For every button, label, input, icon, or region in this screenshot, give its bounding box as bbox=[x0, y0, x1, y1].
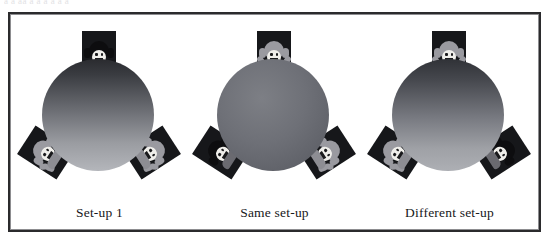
central-sphere bbox=[392, 59, 504, 171]
doll-eye-left bbox=[393, 153, 397, 157]
doll-eye-right bbox=[451, 53, 454, 56]
doll-eye-left bbox=[148, 149, 152, 153]
doll-eye-left bbox=[445, 53, 448, 56]
panel-same-setup: Same set-up bbox=[187, 15, 362, 229]
panel-caption-different-setup: Different set-up bbox=[362, 205, 537, 221]
panel-caption-setup-1: Set-up 1 bbox=[12, 205, 187, 221]
doll-eye-right bbox=[151, 153, 155, 157]
setup-stage-1 bbox=[12, 17, 187, 195]
central-sphere bbox=[217, 59, 329, 171]
central-sphere bbox=[42, 59, 154, 171]
doll-eye-left bbox=[270, 53, 273, 56]
figure-frame: Set-up 1 bbox=[8, 12, 541, 232]
doll-eye-left bbox=[43, 153, 47, 157]
doll-eye-left bbox=[323, 149, 327, 153]
doll-eye-right bbox=[221, 149, 225, 153]
doll-eye-left bbox=[498, 149, 502, 153]
panel-setup-1: Set-up 1 bbox=[12, 15, 187, 229]
doll-eye-right bbox=[501, 153, 505, 157]
doll-eye-right bbox=[396, 149, 400, 153]
setup-stage-2 bbox=[187, 17, 362, 195]
doll-eye-right bbox=[101, 53, 104, 56]
doll-eye-right bbox=[326, 153, 330, 157]
setup-stage-3 bbox=[362, 17, 537, 195]
cut-off-header-text: a a aa a a a a a a bbox=[4, 0, 164, 5]
doll-eye-left bbox=[218, 153, 222, 157]
doll-eye-left bbox=[95, 53, 98, 56]
panel-row: Set-up 1 bbox=[11, 15, 538, 229]
panel-different-setup: Different set-up bbox=[362, 15, 537, 229]
doll-eye-right bbox=[276, 53, 279, 56]
panel-caption-same-setup: Same set-up bbox=[187, 205, 362, 221]
doll-eye-right bbox=[46, 149, 50, 153]
